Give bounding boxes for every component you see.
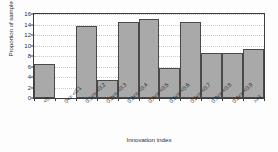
bar-slot (55, 14, 76, 98)
bar (34, 64, 55, 98)
histogram-figure: Proportion of sample (%) 0246810121416 <… (0, 0, 278, 152)
bar-slot (34, 14, 55, 98)
x-axis-title: Innovation index (33, 136, 265, 143)
x-axis-tick-labels: <00<= <0.10.1<= <0.20.2<= <0.30.3<= <0.4… (33, 100, 265, 132)
y-axis-title: Proportion of sample (%) (7, 0, 14, 69)
